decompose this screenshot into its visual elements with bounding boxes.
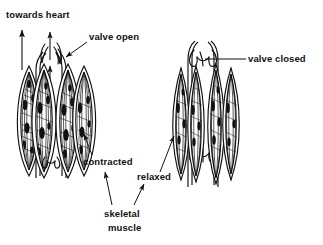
label-towards-heart: towards heart: [6, 9, 70, 20]
label-valve-closed: valve closed: [248, 53, 306, 64]
label-valve-open: valve open: [89, 31, 139, 42]
muscle-pump-illustration: towards heart valve open valve closed co…: [0, 0, 323, 245]
label-contracted: contracted: [83, 156, 133, 167]
label-relaxed: relaxed: [137, 171, 171, 182]
label-skeletal-muscle-line2: muscle: [108, 222, 141, 233]
label-skeletal-muscle-line1: skeletal: [104, 208, 140, 219]
diagram-canvas: towards heart valve open valve closed co…: [0, 0, 323, 245]
